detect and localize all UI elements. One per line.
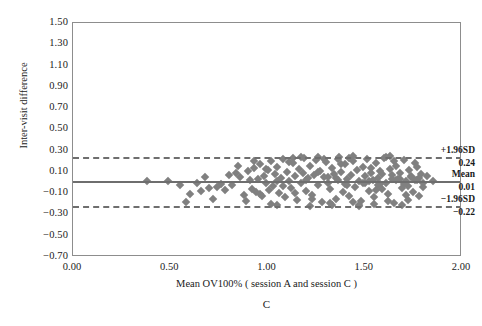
data-point-marker [306,161,314,169]
x-axis-tick-labels: 0.000.501.001.502.00 [72,261,461,275]
plot-area [73,23,460,255]
data-point-marker [185,190,193,198]
annotation-value-upper-loa: 0.24 [392,158,478,168]
annotation-label-upper-loa: +1.96SD [392,145,478,155]
x-tick-label: 2.00 [431,261,482,272]
data-point-marker [205,184,213,192]
data-point-marker [209,194,217,202]
x-tick-label: 1.00 [237,261,297,272]
y-tick-label: 1.10 [24,60,68,71]
annotation-label-mean-bias: Mean [392,169,478,179]
data-point-marker [234,161,242,169]
x-tick-label: 0.00 [42,261,102,272]
y-tick-label: 0.30 [24,145,68,156]
x-axis-title: Mean OV100% ( session A and session C ) [72,278,461,289]
data-point-marker [337,168,345,176]
y-tick-label: −0.30 [24,208,68,219]
y-tick-label: 0.50 [24,123,68,134]
annotation-value-lower-loa: −0.22 [392,207,478,217]
y-axis-title: Inter-visit difference [18,31,29,181]
data-point-marker [182,197,190,205]
y-tick-label: 0.70 [24,102,68,113]
data-point-marker [318,197,326,205]
plot-frame [72,22,461,256]
panel-letter: C [72,298,461,310]
x-tick-label: 1.50 [334,261,394,272]
annotation-value-mean-bias: 0.01 [392,182,478,192]
y-tick-label: 0.90 [24,81,68,92]
x-tick-label: 0.50 [139,261,199,272]
y-tick-label: −0.10 [24,187,68,198]
y-tick-label: 1.50 [24,17,68,28]
y-tick-label: 1.30 [24,38,68,49]
data-point-marker [236,173,244,181]
data-point-marker [281,193,289,201]
data-point-marker [201,173,209,181]
y-tick-label: −0.70 [24,251,68,262]
annotation-label-lower-loa: −1.96SD [392,194,478,204]
y-tick-label: −0.50 [24,230,68,241]
y-tick-label: 0.10 [24,166,68,177]
bland-altman-figure: 1.501.301.100.900.700.500.300.10−0.10−0.… [0,0,482,326]
